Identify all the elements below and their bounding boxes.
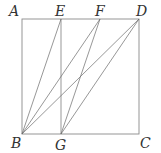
- label-f: F: [94, 3, 106, 19]
- label-g: G: [55, 137, 66, 153]
- label-e: E: [54, 3, 65, 19]
- label-a: A: [7, 3, 19, 19]
- label-d: D: [135, 3, 147, 19]
- label-c: C: [140, 135, 151, 151]
- label-b: B: [10, 135, 21, 151]
- segment-be: [22, 19, 61, 134]
- geometry-diagram: A E F D B G C: [0, 0, 161, 153]
- segment-gd: [61, 19, 139, 134]
- segment-gf: [61, 19, 100, 134]
